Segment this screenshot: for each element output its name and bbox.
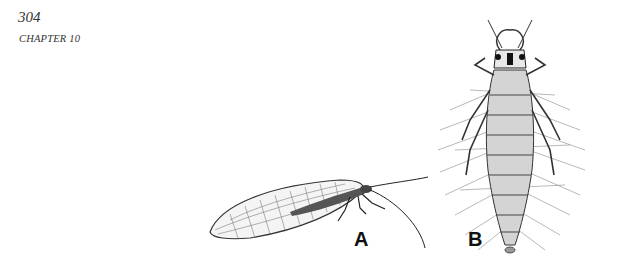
figure: A B (0, 0, 643, 262)
lacewing-larva-illustration (0, 0, 643, 262)
figure-label-b: B (468, 228, 482, 251)
figure-label-a: A (354, 228, 368, 251)
